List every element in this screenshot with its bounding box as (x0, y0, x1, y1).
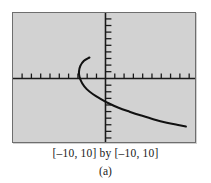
figure-part-label: (a) (0, 165, 211, 177)
viewing-window-caption: [–10, 10] by [–10, 10] (0, 147, 211, 159)
figure-a: [–10, 10] by [–10, 10] (a) (0, 0, 211, 183)
curve-series (79, 58, 186, 127)
graph-plot (13, 13, 195, 142)
graphing-calculator-viewport (12, 12, 196, 143)
